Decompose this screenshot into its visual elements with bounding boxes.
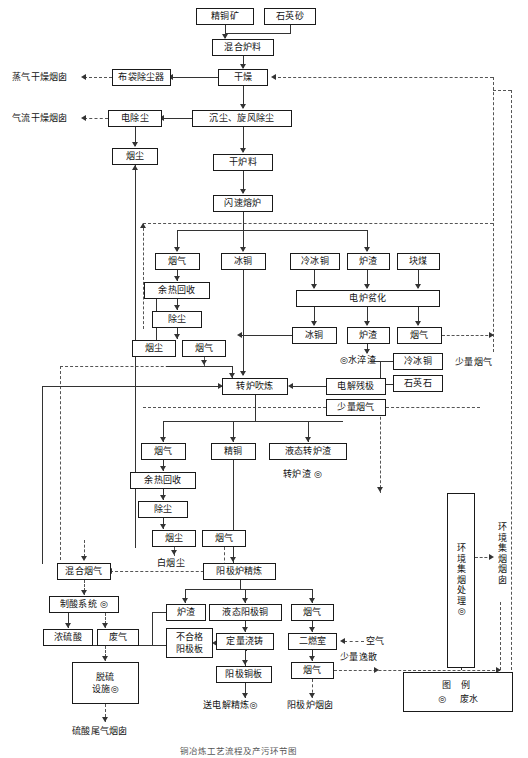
arrow-to-liquid-anode — [242, 598, 248, 603]
arrow-bagfilter-to-steamstack — [81, 74, 86, 80]
link-air-to-chamber — [344, 641, 364, 642]
arrow-slagef-to-quench — [364, 349, 370, 354]
link-return-vertical-drying — [493, 77, 494, 352]
node-quartz-stone: 石英石 — [393, 375, 443, 392]
node-anode-refining: 阳极炉精炼 — [203, 563, 276, 580]
node-dust-2: 烟尘 — [132, 340, 176, 357]
link-mixbus-vertical — [60, 366, 61, 560]
link-env-vertical-in — [380, 407, 381, 493]
link-bagfilter-to-steamstack — [84, 77, 112, 78]
node-fluegas-flash: 烟气 — [155, 253, 200, 270]
link-far-right-top — [493, 90, 511, 91]
label-small-escape: 少量逸散 — [340, 652, 377, 663]
link-env-stack-vertical — [500, 602, 501, 670]
node-anode-slag: 炉渣 — [166, 604, 206, 621]
link-quartz-down — [290, 25, 291, 33]
link-smallfluegas-right — [386, 407, 480, 408]
link-far-right-vertical — [511, 90, 512, 670]
arrow-wh2-to-dedust2 — [160, 495, 166, 500]
node-blister-copper: 精铜 — [211, 443, 256, 460]
link-anodeslag-vertical — [152, 612, 153, 645]
link-smallfluegas-left-bus — [143, 407, 326, 408]
link-recycle-vertical — [42, 386, 43, 564]
link-recycle-into-converter — [42, 386, 222, 387]
arrow-air-to-chamber — [340, 638, 345, 644]
node-electro-precip: 电除尘 — [108, 110, 162, 127]
link-anode-output-bus — [185, 589, 312, 590]
label-airflow-dry-stack: 气流干燥烟囱 — [12, 113, 68, 124]
arrow-to-fluegas-flash — [174, 247, 180, 252]
link-dust-bus-to-converter — [166, 366, 232, 367]
node-liquid-conv-slag: 液态转炉渣 — [269, 443, 347, 460]
link-electro-to-airflowstack — [84, 118, 108, 119]
node-mixed-charge: 混合炉料 — [212, 39, 274, 56]
link-flash-down — [243, 212, 244, 230]
node-fluegas-anode: 烟气 — [291, 604, 334, 621]
arrow-fluegasanode-to-chamber — [309, 627, 315, 632]
link-return-to-drying — [278, 77, 493, 78]
link-fluegasef-right — [442, 335, 493, 336]
link-cyclone-to-electro — [162, 118, 192, 119]
link-anodeslag-left — [152, 612, 166, 613]
link-into-mixed-top — [84, 540, 85, 557]
arrow-wastegas-to-desulfur — [102, 656, 108, 661]
arrow-return-to-drying — [271, 74, 276, 80]
node-settle-cyclone: 沉尘、旋风除尘 — [192, 110, 292, 127]
arrow-to-anode-slag — [182, 598, 188, 603]
link-env-bottom — [461, 668, 462, 670]
link-drying-to-bagfilter — [171, 77, 218, 78]
arrow-to-fluegas-conv — [160, 437, 166, 442]
arrow-dedust1-to-dust2 — [174, 334, 180, 339]
arrow-electro-to-airflowstack — [81, 115, 86, 121]
legend-symbol: ◎ — [438, 694, 446, 704]
arrow-fluegasconv-to-wh2 — [160, 466, 166, 471]
arrow-dedust2-to-dust3 — [160, 524, 166, 529]
arrow-blister-to-anode — [230, 557, 236, 562]
arrow-flash-feedback — [140, 223, 146, 228]
arrow-to-blister — [230, 437, 236, 442]
link-flash-split-bus — [177, 230, 367, 231]
node-desulfur-facility: 脱硫 设施◎ — [72, 662, 139, 704]
arrow-casting-to-plate — [242, 660, 248, 665]
arrow-env-to-stack — [489, 554, 494, 560]
node-drying: 干燥 — [218, 69, 268, 86]
link-quartz-to-mix — [225, 33, 291, 34]
node-dust-1: 烟尘 — [112, 148, 158, 165]
arrow-fluegasef-right — [489, 332, 494, 338]
node-flash-furnace: 闪速熔炉 — [213, 195, 273, 212]
node-dry-charge: 干炉料 — [213, 154, 273, 171]
arrow-wh1-to-dedust1 — [174, 305, 180, 310]
node-liquid-anode-copper: 液态阳极铜 — [209, 604, 282, 621]
arrow-fluegas2-to-anodestack — [309, 693, 315, 698]
arrow-acid-to-wastegas — [102, 623, 108, 628]
arrow-slag-to-ef — [364, 284, 370, 289]
arrow-acid-to-conc — [65, 623, 71, 628]
legend-item-label: 废水 — [460, 694, 478, 704]
node-fluegas-3: 烟气 — [202, 530, 246, 547]
figure-caption: 铜冶炼工艺流程及产污环节图 — [180, 744, 297, 756]
label-env-collect-stack: 环境集烟烟囱 — [497, 522, 508, 602]
arrow-into-mixed-fluegas — [81, 556, 87, 561]
arrow-to-matte-flash — [240, 247, 246, 252]
link-scrap-to-converter — [291, 386, 326, 387]
node-dedust-1: 除尘 — [152, 311, 202, 328]
arrow-fluegas2-down — [201, 360, 207, 365]
node-cold-matte-in: 冷冰铜 — [290, 253, 340, 270]
arrow-ef-to-slag — [364, 321, 370, 326]
node-slag-ef: 炉渣 — [347, 327, 390, 344]
label-air: 空气 — [366, 636, 385, 647]
label-steam-dry-stack: 蒸气干燥烟囱 — [12, 72, 68, 83]
node-matte-ef: 冰铜 — [292, 327, 337, 344]
link-matte-to-converter — [243, 270, 244, 375]
arrow-mixed-to-acid — [81, 590, 87, 595]
arrow-escape-to-env — [374, 667, 379, 673]
node-dust-3: 烟尘 — [152, 530, 196, 547]
node-waste-heat-2: 余热回收 — [130, 472, 196, 489]
link-coldmatte2-stub — [380, 361, 393, 362]
node-quant-casting: 定量浇铸 — [216, 633, 274, 650]
arrow-electro-to-dust1 — [132, 142, 138, 147]
arrow-scrap-to-converter — [288, 383, 293, 389]
arrow-matte-to-converter — [240, 371, 246, 376]
node-reject-anode-plate: 不合格 阳极板 — [166, 628, 213, 658]
arrow-drying-to-cyclone — [240, 104, 246, 109]
